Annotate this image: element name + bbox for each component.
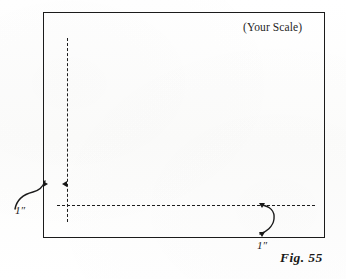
figure-container: (Your Scale) 1″ 1″ Fig. 55 — [0, 0, 346, 279]
bottom-margin-dimension-label: 1″ — [257, 239, 267, 251]
left-margin-dimension-label: 1″ — [15, 204, 25, 216]
arrow-left-marker-icon — [62, 181, 67, 187]
vertical-dashed-guideline — [67, 38, 68, 222]
scale-note-label: (Your Scale) — [243, 21, 302, 33]
figure-caption: Fig. 55 — [280, 250, 323, 266]
bottom-dimension-leader-icon — [248, 200, 288, 244]
